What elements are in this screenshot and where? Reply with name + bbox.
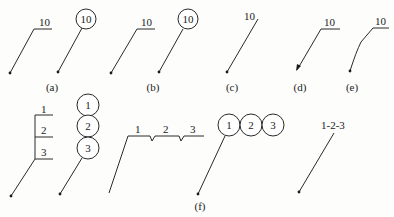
figure-a-circle-leader: 10 <box>57 9 96 73</box>
figure-f-stacked-circle-label-3: 3 <box>85 142 91 154</box>
figure-f-stacked-underline: 1 2 3 <box>10 103 53 197</box>
figure-c-label: 10 <box>244 10 256 22</box>
figure-b-circle-leader: 10 <box>158 9 198 73</box>
figure-e: 10 (e) <box>346 15 389 94</box>
figure-f-horizontal-circles: 1 2 3 <box>197 114 284 195</box>
figure-a-circle-label: 10 <box>81 13 93 25</box>
figure-f-stacked-circle-label-1: 1 <box>85 99 91 111</box>
figure-f-horizontal-circle-label-2: 2 <box>248 119 254 131</box>
figure-b-underline-leader: 10 <box>110 16 155 74</box>
figure-f-stacked-circle-label-2: 2 <box>85 120 91 132</box>
figure-f-caption: (f) <box>195 200 206 213</box>
figure-f-stacked-underline-label-1: 1 <box>41 103 47 115</box>
figure-a: 10 10 (a) <box>9 9 96 94</box>
figure-b-underline-label: 10 <box>141 16 153 28</box>
figure-f-stacked-underline-label-3: 3 <box>41 146 47 158</box>
figure-f-inline-label: 1-2-3 <box>298 119 346 193</box>
figure-d-caption: (d) <box>294 81 307 94</box>
figure-a-underline-leader: 10 <box>9 16 52 74</box>
figure-f-horizontal-underline-label-2: 2 <box>163 123 169 135</box>
figure-b-circle-label: 10 <box>183 13 195 25</box>
figure-a-caption: (a) <box>46 81 59 94</box>
figure-c-caption: (c) <box>226 81 239 94</box>
figure-f: 1 2 3 1 2 3 1 2 3 <box>10 94 346 213</box>
figure-b: 10 10 (b) <box>110 9 198 94</box>
figure-e-label: 10 <box>375 15 387 27</box>
figure-f-horizontal-underline-label-3: 3 <box>190 123 196 135</box>
figure-b-caption: (b) <box>147 81 160 94</box>
figure-f-horizontal-circle-label-1: 1 <box>226 119 232 131</box>
figure-d-label: 10 <box>324 16 336 28</box>
figure-f-stacked-underline-label-2: 2 <box>41 124 47 136</box>
figure-f-inline-label-text: 1-2-3 <box>321 119 345 131</box>
figure-c: 10 (c) <box>226 10 258 94</box>
figure-f-horizontal-underline: 1 2 3 <box>109 123 204 193</box>
figure-f-stacked-circles: 1 2 3 <box>59 94 99 195</box>
figure-d: 10 (d) <box>294 16 340 94</box>
leader-line-diagram: 10 10 (a) 10 10 (b) <box>0 0 394 217</box>
figure-f-horizontal-underline-label-1: 1 <box>135 123 141 135</box>
figure-e-caption: (e) <box>346 81 359 94</box>
figure-f-horizontal-circle-label-3: 3 <box>270 119 276 131</box>
figure-a-underline-label: 10 <box>39 16 51 28</box>
